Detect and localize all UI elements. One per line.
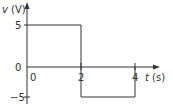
y-tick-label-5: 5 <box>15 20 21 31</box>
x-tick-label-4: 4 <box>132 72 138 83</box>
x-tick-label-0: 0 <box>30 72 36 83</box>
voltage-waveform-chart: v (V) 5 0 −5 0 2 4 t (s) <box>0 0 173 110</box>
x-tick-label-2: 2 <box>78 72 84 83</box>
y-axis-label: v (V) <box>2 4 26 15</box>
x-axis-arrow-icon <box>153 65 160 70</box>
y-tick-label-0: 0 <box>15 62 21 73</box>
x-axis-label: t (s) <box>145 72 165 83</box>
waveform-trace <box>27 25 135 97</box>
y-tick-label-neg5: −5 <box>10 92 25 103</box>
